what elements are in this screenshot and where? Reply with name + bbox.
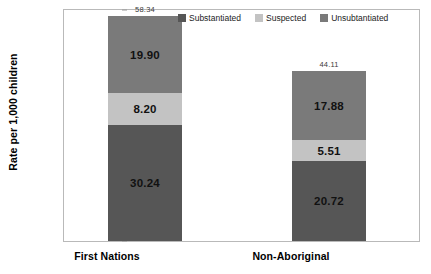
- bar-group[interactable]: 44.1117.885.5120.72: [292, 71, 366, 241]
- bar-segment[interactable]: 19.90: [108, 16, 182, 93]
- bar-segment[interactable]: 20.72: [292, 161, 366, 241]
- stacked-bar-chart: Rate per 1,000 children 0102030405060 58…: [0, 0, 431, 274]
- bar-segment[interactable]: 5.51: [292, 140, 366, 161]
- legend-label: Substantiated: [189, 13, 241, 23]
- bar-group[interactable]: 58.3419.908.2030.24: [108, 16, 182, 241]
- bar-segment-value-label: 8.20: [133, 103, 156, 115]
- legend-item[interactable]: Suspected: [255, 13, 306, 23]
- bar-segment[interactable]: 8.20: [108, 93, 182, 125]
- bar-segment-value-label: 19.90: [130, 49, 160, 61]
- x-axis-category-label: Non-Aboriginal: [216, 250, 366, 262]
- legend-swatch-icon: [320, 14, 328, 22]
- bar-segment-value-label: 5.51: [317, 145, 340, 157]
- bar-segment-value-label: 30.24: [130, 177, 160, 189]
- legend-label: Unsubtantiated: [331, 13, 388, 23]
- chart-legend: SubstantiatedSuspectedUnsubtantiated: [178, 13, 388, 23]
- legend-swatch-icon: [178, 14, 186, 22]
- bar-segment[interactable]: 17.88: [292, 71, 366, 140]
- bar-total-label: 44.11: [292, 60, 366, 69]
- bar-segment[interactable]: 30.24: [108, 125, 182, 241]
- bar-total-label: 58.34: [108, 5, 182, 14]
- legend-swatch-icon: [255, 14, 263, 22]
- y-axis-title: Rate per 1,000 children: [7, 27, 19, 197]
- plot-area: 0102030405060 58.3419.908.2030.2444.1117…: [63, 9, 420, 242]
- legend-item[interactable]: Substantiated: [178, 13, 241, 23]
- legend-label: Suspected: [266, 13, 306, 23]
- legend-item[interactable]: Unsubtantiated: [320, 13, 388, 23]
- bar-segment-value-label: 17.88: [314, 100, 344, 112]
- x-axis-category-label: First Nations: [32, 250, 182, 262]
- bar-segment-value-label: 20.72: [314, 195, 344, 207]
